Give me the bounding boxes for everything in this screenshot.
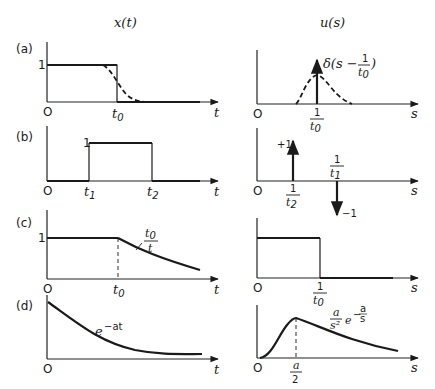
panel-d-left-plot: O t e −at <box>43 295 220 377</box>
dashed-bell-curve <box>296 75 352 104</box>
origin-label: O <box>253 361 262 375</box>
origin-label: O <box>43 362 52 376</box>
neg-tick-num: 1 <box>334 154 340 165</box>
x-tick-t0: t0 <box>113 282 125 299</box>
delta-annotation-suffix: ) <box>370 56 376 71</box>
x-axis-label-t: t <box>214 184 220 199</box>
origin-label: O <box>43 184 52 198</box>
curve-label-num-a: a <box>333 306 340 319</box>
neg-tick-den-t1: t1 <box>330 167 341 181</box>
origin-label: O <box>43 282 52 296</box>
panel-d: (d) O t e −at O s a 2 a s² e <box>16 295 418 385</box>
pos-tick-num: 1 <box>290 183 296 194</box>
panel-b-right-plot: O s +1 −1 1 t2 1 t1 <box>253 128 418 219</box>
curve-label-exp-den: s <box>360 313 365 324</box>
smoothed-dashed-step <box>103 65 146 102</box>
panel-c-label: (c) <box>16 216 32 230</box>
origin-label: O <box>43 105 52 119</box>
positive-impulse-label: +1 <box>277 139 292 150</box>
x-tick-den-t0: t0 <box>310 120 321 134</box>
curve-label-den-t: t <box>148 242 153 255</box>
x-tick-num: 1 <box>317 281 323 292</box>
x-axis-label-t: t <box>214 282 220 297</box>
panel-b: (b) 1 O t t1 t2 O s +1 −1 1 <box>16 126 418 219</box>
y-tick-1: 1 <box>38 231 46 245</box>
x-tick-t1: t1 <box>84 184 96 201</box>
x-tick-den-t0: t0 <box>313 294 324 308</box>
y-tick-1: 1 <box>38 58 46 72</box>
x-tick-num-a: a <box>293 359 300 372</box>
curve-label-exp: −at <box>104 321 123 332</box>
panel-c: (c) 1 O t t0 t0 t O s 1 <box>16 210 418 308</box>
x-axis-label-t: t <box>214 362 220 377</box>
negative-impulse-label: −1 <box>342 208 357 219</box>
origin-label: O <box>253 281 262 295</box>
delta-annotation-den: t0 <box>358 66 369 80</box>
panel-b-label: (b) <box>16 130 33 144</box>
x-tick-t2: t2 <box>147 184 159 201</box>
panel-c-right-plot: O s 1 t0 <box>253 218 418 308</box>
panel-a-right-plot: O s δ(s − 1 t0 ) 1 t0 <box>253 50 418 134</box>
s-axis-label: s <box>411 183 418 198</box>
s-axis-label: s <box>411 106 418 121</box>
curve-label-num-t0: t0 <box>145 227 156 241</box>
panel-d-right-plot: O s a 2 a s² e − a s <box>253 303 418 385</box>
panel-c-left-plot: 1 O t t0 t0 t <box>38 210 220 299</box>
pos-tick-den-t2: t2 <box>286 196 297 210</box>
delta-annotation-num: 1 <box>362 53 368 64</box>
panel-a: (a) 1 O t t0 O s δ(s − 1 <box>16 42 418 134</box>
panel-a-label: (a) <box>16 42 33 56</box>
curve-label-e: e <box>345 314 352 327</box>
x-tick-num: 1 <box>314 107 320 118</box>
s-axis-label: s <box>411 360 418 375</box>
curve-label-den-s2: s² <box>330 319 340 332</box>
origin-label: O <box>253 107 262 121</box>
x-axis-label-t: t <box>214 105 220 120</box>
decay-curve-t0-over-t <box>118 238 200 270</box>
x-tick-den-2: 2 <box>292 374 298 385</box>
origin-label: O <box>253 184 262 198</box>
s-axis-label: s <box>411 280 418 295</box>
header-x-of-t: x(t) <box>114 15 137 30</box>
x-tick-t0: t0 <box>112 106 124 123</box>
y-tick-1: 1 <box>83 136 91 150</box>
panel-b-left-plot: 1 O t t1 t2 <box>43 126 220 201</box>
signal-transform-diagram: x(t) u(s) (a) 1 O t t0 O s <box>0 0 435 389</box>
peak-curve <box>260 318 398 358</box>
panel-a-left-plot: 1 O t t0 <box>38 42 220 123</box>
panel-d-label: (d) <box>16 299 33 313</box>
header-u-of-s: u(s) <box>320 15 345 30</box>
curve-label-base: e <box>95 324 103 339</box>
exponential-decay-curve <box>48 302 202 354</box>
delta-annotation-prefix: δ(s − <box>323 56 358 71</box>
